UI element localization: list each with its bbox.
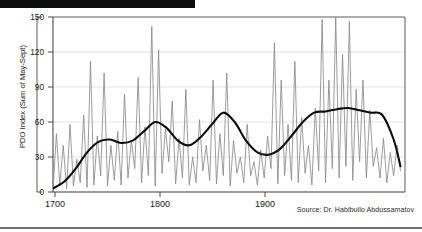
bottom-horizontal-rule — [0, 227, 422, 229]
y-tick-label-150: 150 — [22, 12, 44, 22]
y-tick-label-30: 30 — [22, 152, 44, 162]
y-tick-label-60: 60 — [22, 117, 44, 127]
x-tick-marks-group — [55, 192, 265, 197]
plot-canvas — [0, 0, 422, 232]
series-annual-pdo-line — [53, 17, 400, 190]
y-axis-bracket-group — [37, 17, 42, 192]
x-tick-label-1800: 1800 — [140, 199, 180, 209]
x-tick-label-1700: 1700 — [35, 199, 75, 209]
y-tick-marks-group — [48, 17, 53, 192]
y-tick-label-120: 120 — [22, 47, 44, 57]
y-tick-label-0: 0 — [22, 187, 44, 197]
y-tick-label-90: 90 — [22, 82, 44, 92]
x-tick-label-1900: 1900 — [245, 199, 285, 209]
source-attribution: Source: Dr. Habibullo Abdussamatov — [297, 206, 414, 214]
pdo-index-chart-figure: PDO Index (Sum of May-Sept) — [0, 0, 422, 232]
